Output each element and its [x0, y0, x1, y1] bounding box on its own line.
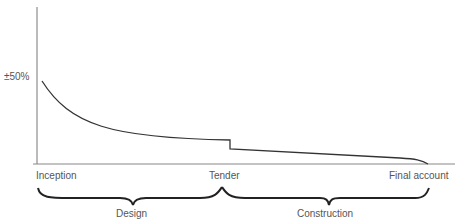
diagram-canvas	[0, 0, 458, 220]
milestone-inception: Inception	[36, 170, 77, 181]
phase-design: Design	[116, 208, 147, 219]
phase-construction: Construction	[297, 208, 353, 219]
construction-brace	[222, 187, 429, 205]
y-axis-label: ±50%	[4, 71, 30, 82]
milestone-tender: Tender	[209, 170, 240, 181]
milestone-final-account: Final account	[389, 170, 448, 181]
accuracy-curve	[42, 81, 428, 164]
design-brace	[38, 187, 222, 205]
